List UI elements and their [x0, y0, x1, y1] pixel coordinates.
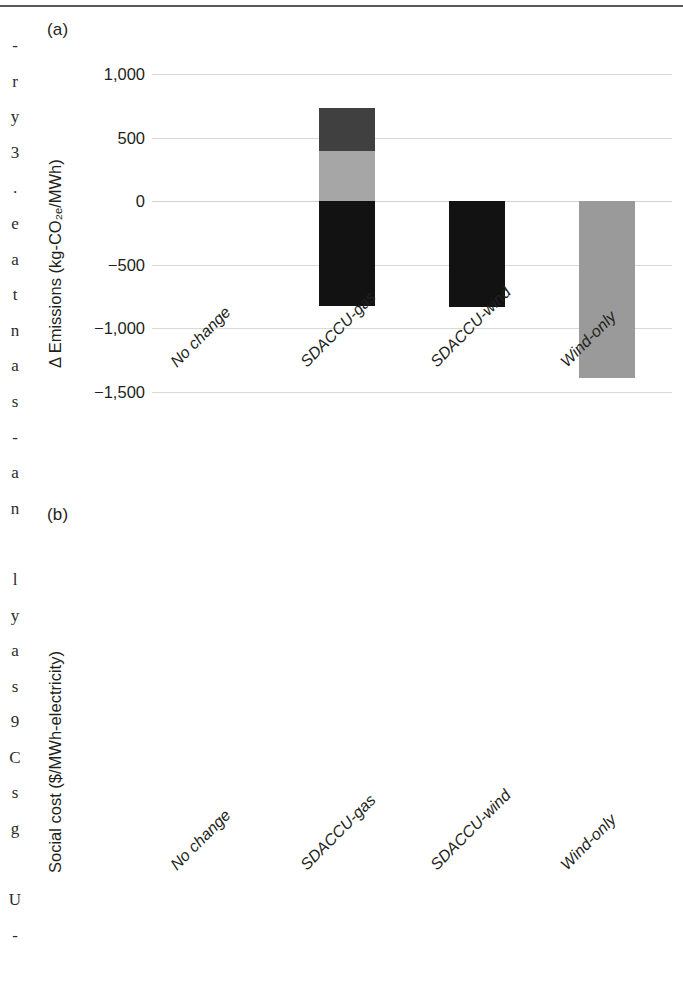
bar-group[interactable]	[412, 74, 542, 392]
chart-panel-b: (b) Social cost ($/MWh-electricity) 4003…	[0, 505, 683, 1000]
bar-group[interactable]	[542, 74, 672, 392]
panel-a-label: (a)	[47, 20, 68, 40]
x-axis-category-label: SDACCU-gas	[297, 791, 380, 874]
bar-segment[interactable]	[319, 108, 375, 151]
x-axis-category-label: No change	[167, 806, 234, 873]
panel-b-y-axis-title: Social cost ($/MWh-electricity)	[46, 651, 65, 873]
bar-segment[interactable]	[319, 151, 375, 201]
panel-a-y-axis-title: Δ Emissions (kg-CO₂ₑ/MWh)	[46, 159, 65, 368]
y-axis-tick-label: 0	[67, 192, 145, 211]
y-axis-tick-label: −1,500	[67, 383, 145, 402]
bar-group[interactable]	[152, 74, 282, 392]
y-axis-tick-label: −500	[67, 255, 145, 274]
panel-b-label: (b)	[47, 505, 68, 525]
gridline	[152, 392, 672, 393]
bar-group[interactable]	[282, 74, 412, 392]
x-axis-category-label: Wind-only	[557, 811, 620, 874]
top-divider-rule	[0, 5, 683, 7]
y-axis-tick-label: 1,000	[67, 65, 145, 84]
x-axis-category-label: SDACCU-wind	[427, 786, 515, 874]
chart-panel-a: (a) Δ Emissions (kg-CO₂ₑ/MWh) 1,0005000−…	[0, 20, 683, 490]
y-axis-tick-label: −1,000	[67, 319, 145, 338]
y-axis-tick-label: 500	[67, 128, 145, 147]
